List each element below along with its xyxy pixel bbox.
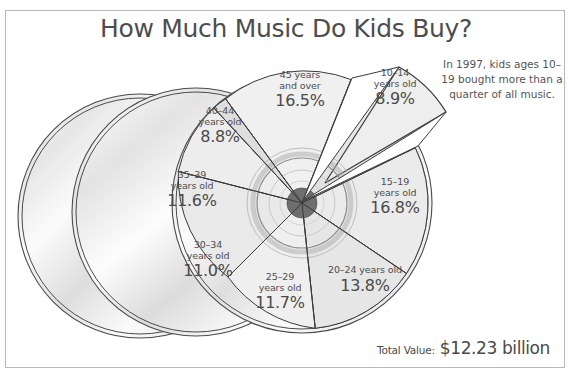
slice-category-45-plus-line2: and over	[245, 81, 355, 92]
slice-label-35-39: 35–39 years old 11.6%	[152, 170, 232, 210]
total-value-amount: $12.23 billion	[440, 338, 550, 358]
slice-category-20-24: 20–24 years old	[310, 265, 420, 276]
slice-label-25-29: 25–29 years old 11.7%	[240, 272, 320, 312]
slice-category-40-44-line2: years old	[180, 117, 260, 128]
slice-percent-20-24: 13.8%	[310, 277, 420, 295]
slice-category-35-39-line2: years old	[152, 181, 232, 192]
slice-category-15-19-line2: years old	[355, 188, 435, 199]
slice-label-30-34: 30–34 years old 11.0%	[168, 240, 248, 280]
slice-percent-10-14: 8.9%	[355, 90, 435, 108]
total-value-label: Total Value:	[377, 344, 435, 356]
slice-percent-15-19: 16.8%	[355, 199, 435, 217]
slice-label-45-plus: 45 years and over 16.5%	[245, 70, 355, 110]
slice-category-30-34-line2: years old	[168, 251, 248, 262]
total-value-footer: Total Value:$12.23 billion	[377, 338, 550, 358]
slice-label-20-24: 20–24 years old 13.8%	[310, 265, 420, 295]
slice-category-10-14-line2: years old	[355, 79, 435, 90]
infographic-page: How Much Music Do Kids Buy? In 1997, kid…	[0, 0, 572, 380]
slice-category-25-29-line2: years old	[240, 283, 320, 294]
callout-annotation: In 1997, kids ages 10–19 bought more tha…	[440, 57, 564, 103]
slice-label-10-14: 10–14 years old 8.9%	[355, 68, 435, 108]
slice-percent-30-34: 11.0%	[168, 262, 248, 280]
slice-percent-45-plus: 16.5%	[245, 92, 355, 110]
slice-percent-40-44: 8.8%	[180, 128, 260, 146]
page-title: How Much Music Do Kids Buy?	[0, 14, 572, 43]
slice-percent-35-39: 11.6%	[152, 192, 232, 210]
slice-label-15-19: 15–19 years old 16.8%	[355, 177, 435, 217]
slice-label-40-44: 40–44 years old 8.8%	[180, 106, 260, 146]
slice-percent-25-29: 11.7%	[240, 294, 320, 312]
